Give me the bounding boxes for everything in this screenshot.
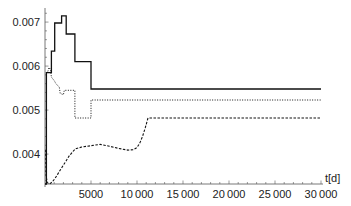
line-chart: 500010 00015 00020 00025 00030 0000.0040… (0, 0, 351, 206)
y-tick-label: 0.006 (12, 60, 40, 72)
x-tick-label: 10 000 (121, 188, 154, 200)
y-tick-label: 0.007 (12, 16, 40, 28)
series-dashed (46, 118, 321, 184)
axes (45, 8, 323, 187)
x-tick-label: 30 000 (305, 188, 338, 200)
x-tick-label: 20 000 (213, 188, 246, 200)
y-tick-label: 0.004 (12, 148, 40, 160)
x-tick-label: 5000 (79, 188, 103, 200)
series-dotted (48, 67, 321, 118)
x-tick-label: 25 000 (259, 188, 292, 200)
y-tick-label: 0.005 (12, 104, 40, 116)
tick-labels: 500010 00015 00020 00025 00030 0000.0040… (12, 16, 340, 200)
x-axis-label: t[d] (325, 172, 340, 184)
x-tick-label: 15 000 (167, 188, 200, 200)
series-group (45, 16, 321, 184)
